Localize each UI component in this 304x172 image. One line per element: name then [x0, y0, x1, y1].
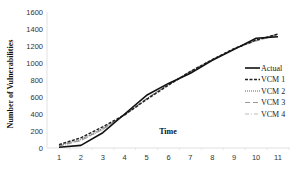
- legend-label: VCM 3: [261, 98, 285, 107]
- x-tick-label: 11: [274, 153, 282, 162]
- y-tick-label: 200: [30, 127, 43, 136]
- x-axis-title: Time: [159, 127, 177, 136]
- legend-label: VCM 1: [261, 75, 285, 84]
- x-tick-label: 7: [188, 153, 192, 162]
- y-axis: 02004006008001000120014001600: [26, 8, 47, 153]
- x-tick-label: 3: [101, 153, 105, 162]
- line-chart: 02004006008001000120014001600 1234567891…: [0, 0, 304, 172]
- y-tick-label: 0: [39, 144, 43, 153]
- x-tick-label: 8: [210, 153, 214, 162]
- y-tick-label: 1400: [26, 25, 43, 34]
- x-tick-label: 4: [123, 153, 127, 162]
- x-tick-label: 2: [79, 153, 83, 162]
- y-tick-label: 600: [30, 93, 43, 102]
- x-tick-label: 9: [232, 153, 236, 162]
- y-tick-label: 400: [30, 110, 43, 119]
- y-tick-label: 1200: [26, 42, 43, 51]
- y-axis-title: Number of Vulnerabilities: [6, 40, 15, 129]
- x-tick-label: 5: [145, 153, 149, 162]
- y-tick-label: 1000: [26, 59, 43, 68]
- legend-label: Actual: [261, 64, 283, 73]
- y-tick-label: 800: [30, 76, 43, 85]
- x-tick-label: 10: [252, 153, 260, 162]
- legend: ActualVCM 1VCM 2VCM 3VCM 4: [245, 64, 285, 119]
- x-tick-label: 6: [166, 153, 170, 162]
- x-tick-label: 1: [57, 153, 61, 162]
- y-tick-label: 1600: [26, 8, 43, 17]
- legend-label: VCM 4: [261, 110, 285, 119]
- x-axis: 1234567891011: [47, 148, 290, 162]
- legend-label: VCM 2: [261, 87, 285, 96]
